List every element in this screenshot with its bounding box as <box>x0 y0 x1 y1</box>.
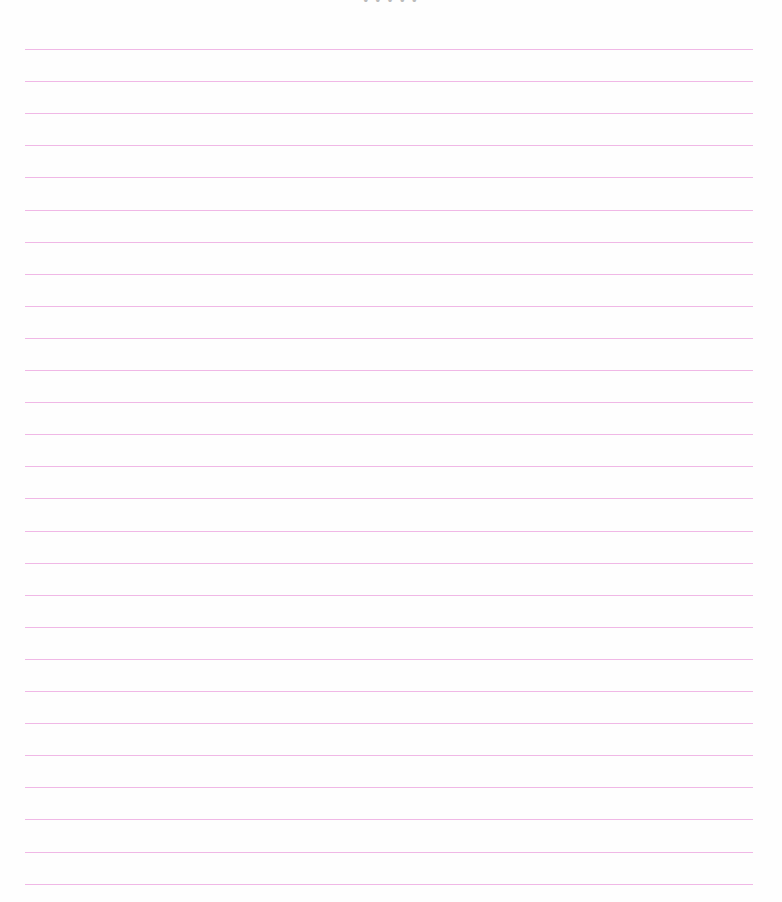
ruled-line <box>25 691 753 692</box>
ruled-line <box>25 852 753 853</box>
ruled-line <box>25 434 753 435</box>
ruled-line <box>25 338 753 339</box>
ruled-line <box>25 755 753 756</box>
ruled-line <box>25 177 753 178</box>
ruled-line <box>25 498 753 499</box>
ruled-line <box>25 466 753 467</box>
ruled-line <box>25 723 753 724</box>
ruled-line <box>25 81 753 82</box>
ruled-line <box>25 787 753 788</box>
ruled-line <box>25 402 753 403</box>
ruled-line <box>25 659 753 660</box>
ruled-line <box>25 563 753 564</box>
ruled-line <box>25 370 753 371</box>
ruled-line <box>25 49 753 50</box>
ruled-line <box>25 306 753 307</box>
ruled-line <box>25 627 753 628</box>
ruled-line <box>25 242 753 243</box>
cropped-header-text: • • • • • <box>0 0 782 3</box>
ruled-line <box>25 595 753 596</box>
ruled-line <box>25 145 753 146</box>
ruled-line <box>25 884 753 885</box>
lined-paper-page: • • • • • <box>0 0 782 902</box>
ruled-line <box>25 531 753 532</box>
ruled-line <box>25 274 753 275</box>
ruled-line <box>25 819 753 820</box>
ruled-line <box>25 113 753 114</box>
ruled-line <box>25 210 753 211</box>
